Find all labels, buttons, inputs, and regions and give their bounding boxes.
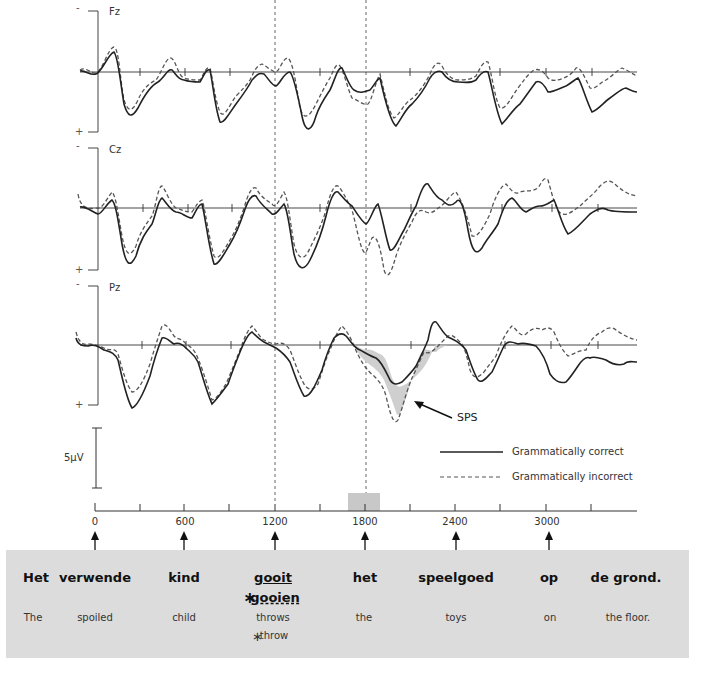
legend-incorrect-label: Grammatically incorrect xyxy=(512,471,633,482)
sps-label: SPS xyxy=(457,411,478,424)
pz-plus-sign: + xyxy=(75,399,83,410)
dutch-word-het-2: het xyxy=(353,570,377,585)
fz-label: Fz xyxy=(109,6,120,17)
panel-cz xyxy=(78,148,637,275)
dutch-word-de-grond: de grond. xyxy=(591,570,662,585)
panel-fz xyxy=(80,11,637,132)
english-word-the-2: the xyxy=(356,612,372,623)
scale-bar xyxy=(92,428,102,488)
tick-label-1800: 1800 xyxy=(352,516,377,527)
cz-minus-sign: - xyxy=(76,140,80,151)
sentence-box xyxy=(6,550,689,658)
dutch-word-het: Het xyxy=(23,570,49,585)
english-word-spoiled: spoiled xyxy=(77,612,113,623)
english-word-throws: throws xyxy=(256,612,290,623)
fz-minus-sign: - xyxy=(76,2,80,13)
tick-label-2400: 2400 xyxy=(442,516,467,527)
english-word-toys: toys xyxy=(445,612,466,623)
cz-plus-sign: + xyxy=(75,264,83,275)
critical-window-highlight xyxy=(348,493,380,511)
scale-label: 5µV xyxy=(64,452,84,463)
dutch-word-op: op xyxy=(540,570,558,585)
english-word-the-floor: the floor. xyxy=(606,612,651,623)
dutch-word-kind: kind xyxy=(168,570,200,585)
english-word-on: on xyxy=(544,612,556,623)
tick-label-0: 0 xyxy=(92,516,98,527)
english-word-child: child xyxy=(172,612,196,623)
tick-label-600: 600 xyxy=(175,516,194,527)
dutch-word-gooit: gooit xyxy=(254,570,292,585)
english-word-the: The xyxy=(24,612,43,623)
fz-plus-sign: + xyxy=(75,126,83,137)
tick-label-1200: 1200 xyxy=(262,516,287,527)
sps-arrow xyxy=(420,404,452,418)
dutch-word-speelgoed: speelgoed xyxy=(418,570,494,585)
english-word-throw: throw xyxy=(260,630,288,641)
tick-label-3000: 3000 xyxy=(534,516,559,527)
legend-correct-label: Grammatically correct xyxy=(512,446,624,457)
panel-pz xyxy=(76,286,637,422)
pz-label: Pz xyxy=(109,282,120,293)
dutch-word-verwende: verwende xyxy=(59,570,131,585)
pz-minus-sign: - xyxy=(76,278,80,289)
dutch-word-gooien: gooien xyxy=(250,590,300,605)
cz-label: Cz xyxy=(109,144,121,155)
